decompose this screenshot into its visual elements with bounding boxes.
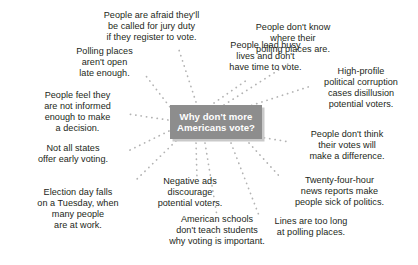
connector-negative-ads bbox=[196, 143, 197, 180]
center-node: Why don't more Americans vote? bbox=[170, 105, 262, 139]
branch-dont-know-where: People don't know where their polling pl… bbox=[243, 22, 343, 55]
mind-map-diagram: People are afraid they'll be called for … bbox=[0, 0, 418, 265]
branch-long-lines: Lines are too long at polling places. bbox=[256, 216, 366, 238]
connector-busy-lives bbox=[214, 80, 247, 103]
branch-not-informed: People feel they are not informed enough… bbox=[27, 90, 128, 134]
branch-no-early-voting: Not all states offer early voting. bbox=[17, 143, 129, 165]
connector-jury-duty bbox=[178, 47, 196, 102]
connector-polling-hours bbox=[146, 76, 173, 111]
branch-corruption: High-profile political corruption cases … bbox=[309, 66, 413, 110]
connector-news-cycle bbox=[249, 143, 281, 178]
connector-not-informed bbox=[128, 114, 168, 120]
branch-negative-ads: Negative ads discourage potential voters… bbox=[142, 176, 238, 209]
branch-jury-duty: People are afraid they'll be called for … bbox=[90, 10, 213, 43]
connector-no-early-voting bbox=[128, 131, 169, 151]
center-node-line-1: Why don't more bbox=[180, 111, 253, 122]
center-node-line-2: Americans vote? bbox=[177, 122, 255, 133]
branch-polling-hours: Polling places aren't open late enough. bbox=[62, 46, 147, 79]
branch-votes-dont-matter: People don't think their votes will make… bbox=[288, 129, 406, 162]
branch-news-cycle: Twenty-four-hour news reports make peopl… bbox=[276, 175, 403, 208]
connector-votes-dont-matter bbox=[259, 137, 290, 142]
branch-tuesday-workday: Election day falls on a Tuesday, when ma… bbox=[19, 187, 137, 231]
connector-tuesday-workday bbox=[137, 141, 176, 179]
